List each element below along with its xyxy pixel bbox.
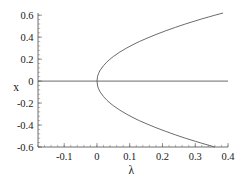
- y-tick-label: 0.6: [20, 10, 33, 21]
- x-axis-title: λ: [129, 164, 135, 176]
- y-axis-title: x: [13, 81, 19, 93]
- x-axis-tick-labels: -0.100.10.20.30.4: [56, 151, 235, 162]
- data-series-layer: [38, 13, 228, 147]
- x-tick-label: -0.1: [56, 151, 73, 162]
- x-tick-label: 0.4: [221, 151, 235, 162]
- y-axis-tick-labels: -0.6-0.4-0.200.20.40.6: [17, 10, 34, 153]
- x-tick-label: 0.3: [189, 151, 202, 162]
- y-tick-label: -0.2: [17, 98, 34, 109]
- x-tick-label: 0.2: [156, 151, 169, 162]
- y-tick-label: 0.4: [20, 32, 34, 43]
- series-lower-branch: [97, 81, 215, 147]
- y-tick-label: 0: [28, 76, 33, 87]
- y-tick-label: -0.4: [17, 120, 34, 131]
- y-tick-label: -0.6: [17, 142, 34, 153]
- x-tick-label: 0: [94, 151, 99, 162]
- x-tick-label: 0.1: [123, 151, 136, 162]
- bifurcation-diagram-figure: -0.100.10.20.30.4 -0.6-0.4-0.200.20.40.6…: [0, 0, 249, 187]
- series-upper-branch: [97, 13, 223, 81]
- plot-canvas: -0.100.10.20.30.4 -0.6-0.4-0.200.20.40.6…: [0, 0, 249, 187]
- y-tick-label: 0.2: [20, 54, 33, 65]
